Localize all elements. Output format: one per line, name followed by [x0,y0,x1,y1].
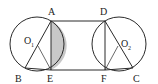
label-d: D [100,6,107,17]
label-c: C [133,73,140,84]
label-b: B [15,73,22,84]
geometry-diagram: A D B E F C O 1 O 2 [0,0,158,84]
label-o2-sub: 2 [128,45,131,51]
label-a: A [48,6,56,17]
label-o1-sub: 1 [31,42,34,48]
segment-o1e [38,46,51,70]
label-e: E [47,73,53,84]
segment-o2f [105,46,118,70]
label-f: F [101,73,107,84]
